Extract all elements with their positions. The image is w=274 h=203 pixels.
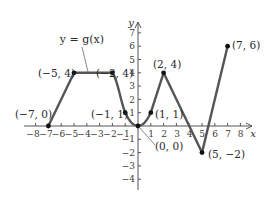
label-7-6: (7, 6) bbox=[232, 39, 260, 51]
label-1-1: (1, 1) bbox=[155, 108, 183, 120]
point-7-6 bbox=[225, 44, 230, 49]
x-axis-label: x bbox=[250, 128, 256, 139]
point-m7-0 bbox=[46, 124, 51, 129]
svg-text:−4: −4 bbox=[122, 174, 136, 184]
svg-text:2: 2 bbox=[161, 129, 167, 139]
svg-text:6: 6 bbox=[129, 41, 135, 51]
y-axis-label: y bbox=[127, 17, 134, 28]
label-m1-1: (−1, 1) bbox=[91, 108, 128, 120]
function-label: y = g(x) bbox=[59, 33, 104, 46]
svg-text:1: 1 bbox=[129, 108, 135, 118]
label-0-0: (0, 0) bbox=[155, 140, 183, 152]
label-m5-4: (−5, 4) bbox=[38, 67, 75, 79]
svg-text:−3: −3 bbox=[122, 161, 136, 171]
label-m2-4: (−2, 4) bbox=[96, 67, 133, 79]
svg-text:7: 7 bbox=[225, 129, 231, 139]
function-label-leader bbox=[82, 47, 88, 72]
label-m7-0: (−7, 0) bbox=[15, 108, 52, 120]
svg-text:−2: −2 bbox=[122, 148, 135, 158]
svg-text:−3: −3 bbox=[90, 129, 104, 139]
svg-text:−4: −4 bbox=[77, 129, 91, 139]
svg-text:5: 5 bbox=[199, 129, 205, 139]
svg-text:8: 8 bbox=[238, 129, 244, 139]
svg-text:−8: −8 bbox=[26, 129, 40, 139]
label-5-m2: (5, −2) bbox=[208, 148, 245, 160]
svg-text:−7: −7 bbox=[39, 129, 53, 139]
svg-text:−6: −6 bbox=[52, 129, 66, 139]
svg-text:−2: −2 bbox=[103, 129, 116, 139]
svg-text:−5: −5 bbox=[65, 129, 79, 139]
point-1-1 bbox=[148, 110, 153, 115]
svg-text:7: 7 bbox=[129, 28, 135, 38]
svg-text:2: 2 bbox=[129, 95, 135, 105]
label-2-4: (2, 4) bbox=[153, 58, 181, 70]
svg-text:3: 3 bbox=[129, 81, 135, 91]
point-2-4 bbox=[161, 70, 166, 75]
point-5-m2 bbox=[200, 150, 205, 155]
svg-text:3: 3 bbox=[174, 129, 180, 139]
function-graph: −8 −7 −6 −5 −4 −3 −2 −1 1 2 3 4 5 6 7 8 … bbox=[0, 0, 274, 203]
svg-text:1: 1 bbox=[148, 129, 154, 139]
svg-text:5: 5 bbox=[129, 55, 135, 65]
svg-text:6: 6 bbox=[212, 129, 218, 139]
svg-text:−1: −1 bbox=[122, 134, 135, 144]
